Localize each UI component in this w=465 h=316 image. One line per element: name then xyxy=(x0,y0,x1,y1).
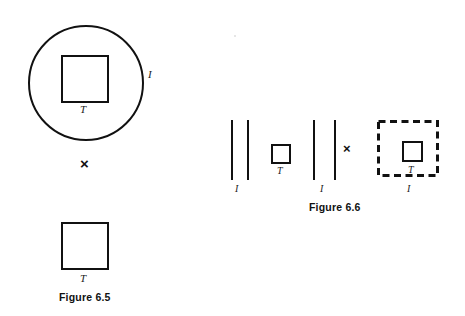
figure-caption-65: Figure 6.5 xyxy=(59,291,111,303)
circle-square-label-t: T xyxy=(80,103,86,115)
times-operator-right: × xyxy=(343,141,351,156)
result-square-label-t: T xyxy=(80,272,86,284)
vertical-bar-4 xyxy=(334,120,336,180)
figure-caption-66: Figure 6.6 xyxy=(309,201,361,213)
middle-square-label-t: T xyxy=(277,165,283,176)
tile-square-middle xyxy=(271,144,291,164)
vertical-bar-2 xyxy=(247,120,249,180)
figure-canvas: I T × T Figure 6.5 T I I × T I Figure 6.… xyxy=(0,0,465,316)
tile-square-result xyxy=(61,222,109,270)
tile-square-in-dashed xyxy=(402,141,423,162)
tile-square-in-circle xyxy=(61,55,109,103)
dashed-inner-square-label-t: T xyxy=(408,164,414,175)
circle-boundary-label-i: I xyxy=(148,68,152,80)
scan-speck xyxy=(234,35,236,37)
dashed-region-label-i: I xyxy=(407,183,410,194)
left-bars-label-i: I xyxy=(235,183,238,194)
vertical-bar-1 xyxy=(231,120,233,180)
vertical-bar-3 xyxy=(313,120,315,180)
right-bars-label-i: I xyxy=(320,183,323,194)
times-operator-left: × xyxy=(80,155,89,172)
